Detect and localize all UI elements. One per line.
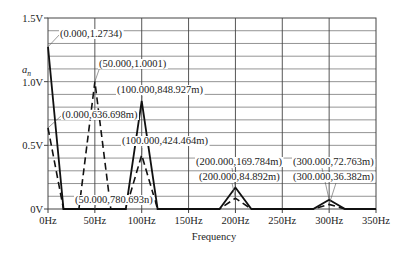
annotation-leader (48, 34, 60, 47)
y-tick-label: 0.5V (22, 140, 43, 151)
x-tick-label: 250Hz (268, 215, 296, 226)
data-point-annotation: (100.000,424.464m) (122, 135, 209, 147)
y-axis-ticks: 0V0.5V1.0V1.5V (22, 13, 48, 215)
x-tick-label: 200Hz (221, 215, 249, 226)
data-point-annotation: (100.000,848.927m) (117, 84, 204, 96)
annotation-leaders (48, 34, 336, 209)
data-point-annotation: (200.000,84.892m) (199, 171, 280, 183)
y-tick-label: 1.0V (22, 77, 43, 88)
data-point-annotation: (50.000,780.693n) (75, 194, 153, 206)
data-point-annotation: (200.000,169.784m) (196, 156, 283, 168)
data-point-annotation: (0.000,636.698m) (62, 109, 138, 121)
x-axis-label: Frequency (192, 231, 237, 242)
data-point-annotation: (300.000,36.382m) (293, 171, 374, 183)
x-tick-label: 100Hz (128, 215, 156, 226)
spectrum-chart: 0V0.5V1.0V1.5V 0Hz50Hz100Hz150Hz200Hz250… (0, 0, 411, 255)
data-point-annotation: (50.000,1.0001) (99, 58, 167, 70)
series (48, 47, 376, 209)
y-tick-label: 0V (30, 204, 43, 215)
x-tick-label: 150Hz (175, 215, 203, 226)
series-solid (48, 47, 376, 209)
x-axis-ticks: 0Hz50Hz100Hz150Hz200Hz250Hz300Hz350Hz (39, 209, 390, 226)
x-tick-label: 300Hz (315, 215, 343, 226)
data-point-annotation: (300.000,72.763m) (293, 156, 374, 168)
data-point-annotation: (0.000,1.2734) (60, 28, 123, 40)
x-tick-label: 50Hz (83, 215, 106, 226)
x-tick-label: 0Hz (39, 215, 57, 226)
x-tick-label: 350Hz (362, 215, 390, 226)
y-tick-label: 1.5V (22, 13, 43, 24)
